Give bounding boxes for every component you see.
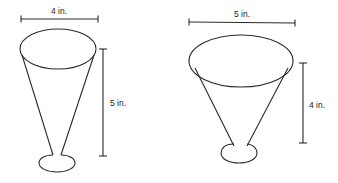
cone-top-ellipse-right — [189, 35, 293, 87]
height-dimension-right: 4 in. — [299, 63, 325, 143]
height-label-left: 5 in. — [110, 98, 126, 108]
width-dimension-right: 5 in. — [189, 9, 295, 27]
cone-side-left-b — [195, 68, 234, 146]
cone-figure-right: 5 in. 4 in. — [189, 9, 325, 163]
cone-base-ellipse-right — [221, 144, 257, 163]
cone-figure-left: 4 in. 5 in. — [20, 6, 126, 172]
cone-side-left-a — [22, 55, 53, 155]
height-dimension-left: 5 in. — [99, 49, 126, 156]
height-label-right: 4 in. — [309, 100, 325, 110]
width-dimension-left: 4 in. — [21, 6, 98, 23]
cone-side-right-a — [61, 55, 94, 155]
cone-base-ellipse-left — [39, 155, 75, 172]
width-label-left: 4 in. — [51, 6, 67, 16]
cone-top-ellipse-left — [20, 29, 96, 69]
width-label-right: 5 in. — [234, 9, 250, 19]
cone-diagram: 4 in. 5 in. 5 in. 4 in. — [0, 0, 338, 183]
cone-side-right-b — [247, 68, 288, 146]
